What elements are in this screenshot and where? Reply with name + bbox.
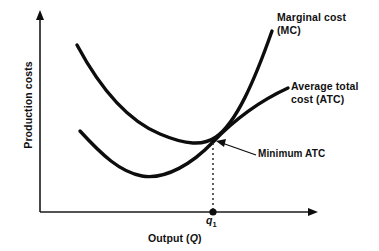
average-total-cost-label: Average total cost (ATC) [291, 80, 358, 105]
x-axis [40, 208, 318, 216]
x-axis-title-variable: Q [190, 232, 198, 244]
average-total-cost-curve [80, 88, 288, 177]
marginal-cost-label-line1: Marginal cost [277, 11, 346, 24]
x-axis-title: Output (Q) [148, 232, 202, 245]
y-axis [36, 10, 44, 212]
q1-tick-label: q1 [206, 214, 217, 232]
chart-canvas [0, 0, 379, 251]
minimum-atc-annotation: Minimum ATC [258, 148, 325, 161]
minimum-atc-leader-arrow [216, 139, 256, 155]
x-axis-arrowhead [308, 208, 318, 216]
y-axis-title: Production costs [22, 30, 35, 180]
x-axis-title-prefix: Output ( [148, 232, 190, 244]
y-axis-arrowhead [36, 10, 44, 20]
average-total-cost-label-line2: cost (ATC) [291, 93, 358, 106]
marginal-cost-curve [77, 31, 272, 143]
marginal-cost-label-line2: (MC) [277, 24, 346, 37]
x-axis-title-suffix: ) [198, 232, 202, 244]
average-total-cost-label-line1: Average total [291, 80, 358, 93]
q1-subscript: 1 [213, 220, 217, 229]
cost-curves-figure: Marginal cost (MC) Average total cost (A… [0, 0, 379, 251]
marginal-cost-label: Marginal cost (MC) [277, 11, 346, 36]
